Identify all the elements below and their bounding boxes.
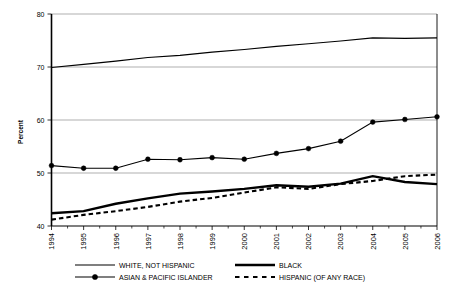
data-point-asian-pacific-islander-1995 [81, 166, 86, 171]
data-point-asian-pacific-islander-2004 [370, 120, 375, 125]
x-tick-label-2005: 2005 [401, 233, 410, 250]
y-tick-label-60: 60 [37, 117, 45, 124]
data-point-asian-pacific-islander-1996 [113, 166, 118, 171]
series-line-black [52, 176, 438, 213]
data-point-asian-pacific-islander-2002 [306, 146, 311, 151]
series-line-white-not-hispanic [52, 38, 438, 68]
line-chart: Percent 4050607080 199419951996199719981… [0, 0, 454, 294]
x-axis-labels: 1994199519961997199819992000200120022003… [47, 233, 442, 250]
x-tick-label-1999: 1999 [208, 233, 217, 250]
series-line-hispanic-of-any-race [52, 175, 438, 220]
legend-label-white-not-hispanic: WHITE, NOT HISPANIC [119, 262, 195, 269]
legend-label-black: BLACK [279, 262, 302, 269]
data-point-asian-pacific-islander-2006 [435, 114, 440, 119]
data-point-asian-pacific-islander-1997 [145, 157, 150, 162]
legend-marker-asian-pacific-islander [92, 274, 97, 279]
data-point-asian-pacific-islander-1994 [49, 163, 54, 168]
chart-legend: WHITE, NOT HISPANICBLACKASIAN & PACIFIC … [75, 262, 365, 282]
data-point-asian-pacific-islander-2005 [402, 117, 407, 122]
y-axis-title: Percent [17, 119, 24, 144]
x-tick-label-2000: 2000 [240, 233, 249, 250]
data-series-layer [49, 38, 439, 220]
data-point-asian-pacific-islander-2000 [242, 157, 247, 162]
y-tick-label-40: 40 [37, 223, 45, 230]
x-axis-ticks [52, 226, 438, 230]
x-tick-label-2006: 2006 [433, 233, 442, 250]
x-tick-label-1995: 1995 [79, 233, 88, 250]
chart-container: Percent 4050607080 199419951996199719981… [0, 0, 454, 294]
data-point-asian-pacific-islander-2003 [338, 139, 343, 144]
legend-label-hispanic-of-any-race: HISPANIC (OF ANY RACE) [279, 274, 365, 282]
x-tick-label-1994: 1994 [47, 233, 56, 250]
x-tick-label-2002: 2002 [304, 233, 313, 250]
x-tick-label-1998: 1998 [176, 233, 185, 250]
legend-label-asian-pacific-islander: ASIAN & PACIFIC ISLANDER [119, 274, 213, 281]
y-tick-label-70: 70 [37, 64, 45, 71]
y-axis-ticks: 4050607080 [37, 11, 52, 230]
y-tick-label-50: 50 [37, 170, 45, 177]
x-tick-label-2003: 2003 [336, 233, 345, 250]
x-tick-label-2001: 2001 [272, 233, 281, 250]
x-tick-label-1996: 1996 [112, 233, 121, 250]
data-point-asian-pacific-islander-2001 [274, 151, 279, 156]
data-point-asian-pacific-islander-1999 [210, 155, 215, 160]
data-point-asian-pacific-islander-1998 [178, 157, 183, 162]
x-tick-label-2004: 2004 [369, 233, 378, 250]
y-tick-label-80: 80 [37, 11, 45, 18]
x-tick-label-1997: 1997 [144, 233, 153, 250]
